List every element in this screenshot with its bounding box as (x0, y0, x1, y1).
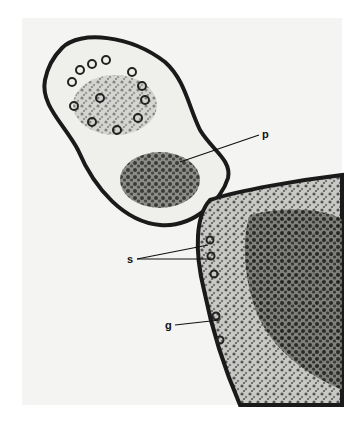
label-p: p (262, 129, 269, 140)
micrograph-image (0, 0, 361, 428)
label-g: g (165, 320, 172, 331)
upper-cell (44, 37, 228, 225)
lower-cell (198, 175, 342, 405)
label-s: s (127, 254, 133, 265)
